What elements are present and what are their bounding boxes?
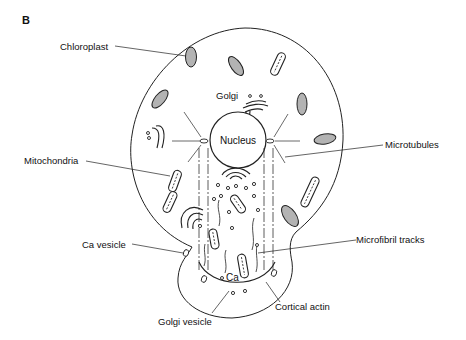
er-curl-left bbox=[147, 126, 165, 148]
mitochondrion-icon bbox=[167, 169, 182, 192]
mitochondrion-icon bbox=[229, 194, 247, 215]
cell-diagram: B bbox=[0, 0, 466, 340]
golgi-lower bbox=[222, 168, 250, 179]
mitochondrion-icon bbox=[300, 176, 321, 208]
chloroplast-icon bbox=[149, 87, 171, 110]
chloroplast-label: Chloroplast bbox=[60, 41, 108, 52]
microfibril-tracks-label: Microfibril tracks bbox=[356, 234, 425, 245]
golgi-vesicle-label: Golgi vesicle bbox=[158, 316, 212, 327]
microtubules-label: Microtubules bbox=[385, 139, 439, 150]
mitochondrion-icon bbox=[162, 190, 179, 213]
chloroplast-icon bbox=[297, 93, 307, 115]
mtoc-left bbox=[200, 139, 208, 143]
golgi-label: Golgi bbox=[216, 90, 238, 101]
cortical-actin-label: Cortical actin bbox=[275, 301, 330, 312]
chloroplast-icon bbox=[226, 54, 247, 78]
nucleus-label: Nucleus bbox=[220, 135, 256, 146]
mitochondrion-icon bbox=[269, 51, 286, 76]
ca-vesicle-label: Ca vesicle bbox=[82, 239, 126, 250]
ca-label: Ca bbox=[226, 272, 239, 283]
chloroplast-icon bbox=[186, 47, 197, 67]
mtoc-right bbox=[266, 139, 274, 143]
mitochondria-label: Mitochondria bbox=[24, 155, 79, 166]
panel-label: B bbox=[22, 14, 30, 26]
ca-vesicle-small bbox=[221, 277, 224, 280]
vesicles bbox=[198, 182, 259, 229]
chloroplast-icon bbox=[278, 203, 302, 230]
chloroplast-icon bbox=[313, 132, 336, 146]
mitochondrion-icon bbox=[208, 228, 219, 249]
